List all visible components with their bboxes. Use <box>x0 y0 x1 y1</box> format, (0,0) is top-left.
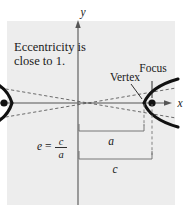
x-axis-label: x <box>176 97 183 109</box>
figure-container: a c y x Eccentricity is close to 1. Vert… <box>0 0 186 216</box>
eccentricity-note-line1: Eccentricity is <box>14 40 86 54</box>
measure-label-c: c <box>112 163 117 175</box>
y-axis-label: y <box>79 6 86 19</box>
equation-equals: = <box>45 140 52 152</box>
equation-numerator: c <box>59 136 64 147</box>
equation-lhs: e <box>37 140 42 152</box>
equation-denominator: a <box>58 149 63 160</box>
measure-label-a: a <box>108 135 114 147</box>
hyperbola-eccentricity-figure: a c y x Eccentricity is close to 1. Vert… <box>0 0 186 216</box>
focus-label: Focus <box>139 62 167 74</box>
vertex-label: Vertex <box>110 71 140 83</box>
left-focus-point <box>0 99 7 106</box>
eccentricity-note-line2: close to 1. <box>14 54 65 68</box>
